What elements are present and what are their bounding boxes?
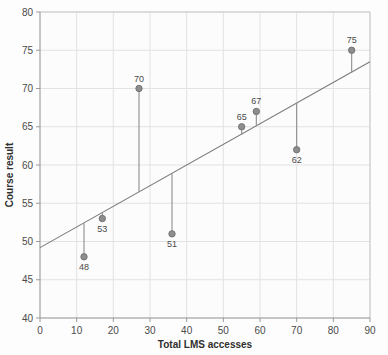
- data-point-value-label: 53: [97, 224, 107, 234]
- x-tick-label: 90: [364, 325, 376, 336]
- y-tick-label: 65: [22, 121, 34, 132]
- data-point-value-label: 62: [292, 155, 302, 165]
- data-point-value-label: 75: [347, 35, 357, 45]
- data-point-marker: [293, 147, 299, 153]
- y-tick-label: 75: [22, 45, 34, 56]
- x-tick-label: 60: [254, 325, 266, 336]
- y-tick-label: 50: [22, 236, 34, 247]
- x-tick-label: 30: [144, 325, 156, 336]
- data-point-marker: [81, 254, 87, 260]
- y-tick-label: 40: [22, 313, 34, 324]
- x-tick-label: 40: [181, 325, 193, 336]
- x-tick-label: 0: [37, 325, 43, 336]
- scatter-plot-figure: 404550556065707580 0102030405060708090 4…: [0, 0, 388, 355]
- data-point-value-label: 67: [251, 96, 261, 106]
- x-axis-title: Total LMS accesses: [158, 339, 253, 350]
- data-point-value-label: 51: [167, 239, 177, 249]
- data-point-value-label: 65: [237, 112, 247, 122]
- data-point-value-label: 70: [134, 74, 144, 84]
- x-tick-label: 10: [71, 325, 83, 336]
- y-tick-label: 55: [22, 198, 34, 209]
- y-axis-title: Course result: [4, 142, 15, 207]
- data-point-marker: [348, 47, 354, 53]
- y-tick-label: 60: [22, 160, 34, 171]
- y-tick-label: 70: [22, 83, 34, 94]
- data-point-marker: [253, 108, 259, 114]
- data-point-marker: [169, 231, 175, 237]
- x-tick-label: 50: [218, 325, 230, 336]
- data-point-marker: [136, 85, 142, 91]
- y-tick-label: 80: [22, 7, 34, 18]
- x-tick-label: 70: [291, 325, 303, 336]
- x-tick-label: 80: [328, 325, 340, 336]
- x-tick-label: 20: [108, 325, 120, 336]
- chart-canvas: 404550556065707580 0102030405060708090 4…: [0, 0, 388, 355]
- data-point-value-label: 48: [79, 262, 89, 272]
- y-tick-label: 45: [22, 274, 34, 285]
- data-point-marker: [99, 215, 105, 221]
- data-point-marker: [238, 124, 244, 130]
